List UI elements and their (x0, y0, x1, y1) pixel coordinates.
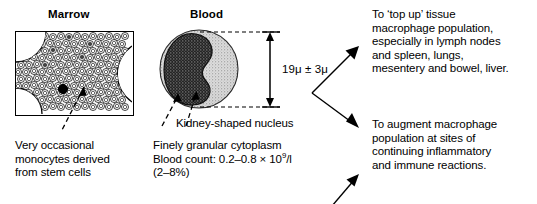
kidney-shaped-nucleus-label: Kidney-shaped nucleus (176, 117, 293, 129)
monocyte-in-marrow-leader (40, 80, 90, 138)
blood-caption-line-1: Finely granular cytoplasm (153, 139, 318, 153)
fork-arrow-lower (346, 113, 359, 128)
blood-caption: Finely granular cytoplasm Blood count: 0… (153, 139, 318, 180)
blood-count-suffix: /l (286, 153, 292, 165)
marrow-caption: Very occasional monocytes derived from s… (15, 139, 155, 180)
blood-count-prefix: Blood count: 0.2–0.8 × 10 (153, 153, 282, 165)
blood-count-line: Blood count: 0.2–0.8 × 109/l (153, 153, 318, 167)
outcome-fork-arrows (300, 30, 370, 145)
outcome-text-augment: To augment macrophage population at site… (372, 118, 537, 172)
feedback-arrow-bottom (326, 168, 370, 204)
blood-panel-title: Blood (190, 8, 223, 20)
blood-percent-line: (2–8%) (153, 166, 318, 180)
outcome-text-top-up: To ‘top up’ tissue macrophage population… (372, 8, 537, 76)
monocyte-figure: Marrow (0, 0, 537, 204)
marrow-panel-title: Marrow (48, 8, 90, 20)
